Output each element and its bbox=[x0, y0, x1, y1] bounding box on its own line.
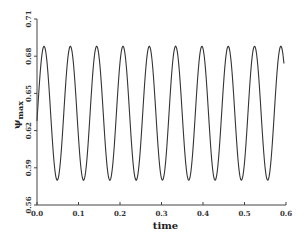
y-axis-title-main: ψ bbox=[11, 120, 22, 129]
x-axis-title: time bbox=[153, 220, 178, 231]
plot-area bbox=[37, 46, 284, 180]
x-tick-label: 0.1 bbox=[72, 209, 84, 218]
y-tick-label: 0.65 bbox=[24, 85, 33, 102]
y-tick-label: 0.68 bbox=[24, 48, 33, 65]
y-tick-label: 0.62 bbox=[24, 122, 33, 139]
x-ticks: 0.00.10.20.30.40.50.6 bbox=[31, 202, 292, 218]
series-line-psi-max bbox=[37, 46, 284, 180]
y-ticks: 0.560.590.620.650.680.71 bbox=[24, 10, 37, 213]
x-axis: 0.00.10.20.30.40.50.6 bbox=[31, 202, 292, 218]
y-axis: 0.560.590.620.650.680.71 bbox=[24, 10, 37, 213]
y-tick-label: 0.71 bbox=[24, 10, 33, 27]
svg-text:ψmax: ψmax bbox=[11, 101, 25, 129]
y-axis-title-sub: max bbox=[15, 101, 25, 120]
y-tick-label: 0.59 bbox=[24, 159, 33, 176]
x-tick-label: 0.3 bbox=[155, 209, 167, 218]
x-tick-label: 0.6 bbox=[280, 209, 292, 218]
y-axis-title: ψmax bbox=[11, 101, 25, 129]
x-tick-label: 0.4 bbox=[197, 209, 209, 218]
x-tick-label: 0.5 bbox=[238, 209, 250, 218]
x-tick-label: 0.0 bbox=[31, 209, 43, 218]
x-tick-label: 0.2 bbox=[114, 209, 126, 218]
oscillation-chart: 0.560.590.620.650.680.71 0.00.10.20.30.4… bbox=[0, 0, 304, 241]
